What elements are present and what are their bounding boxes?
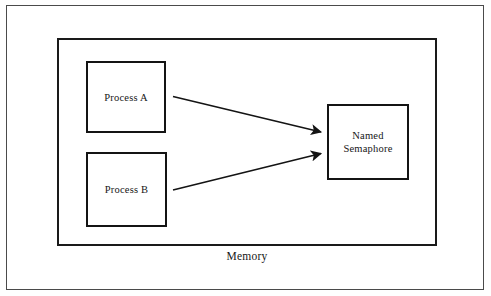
node-process-a: Process A [86, 61, 166, 133]
node-process-b: Process B [86, 152, 167, 227]
diagram-canvas: Process A Process B Named Semaphore Memo… [0, 0, 491, 296]
memory-enclosure-label: Memory [57, 249, 437, 263]
node-named-semaphore-label: Named Semaphore [343, 129, 392, 155]
node-named-semaphore: Named Semaphore [327, 104, 409, 180]
node-process-a-label: Process A [104, 91, 148, 104]
node-process-b-label: Process B [105, 183, 149, 196]
